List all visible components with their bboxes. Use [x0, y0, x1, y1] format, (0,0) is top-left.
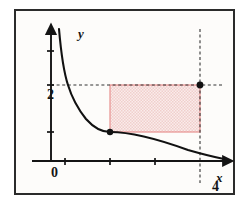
origin-label: 0: [51, 166, 58, 180]
shaded-rectangle: [110, 85, 200, 132]
point-on-curve: [107, 129, 113, 135]
y-tick-label-2: 2: [47, 88, 54, 102]
y-axis-label: y: [78, 27, 84, 40]
figure-frame: y x 0 2 4: [14, 9, 235, 195]
point-upper-right-corner: [197, 82, 204, 89]
figure-screenshot: y x 0 2 4: [0, 0, 249, 208]
plot-canvas: [16, 11, 237, 197]
x-tick-label-4: 4: [212, 180, 219, 194]
